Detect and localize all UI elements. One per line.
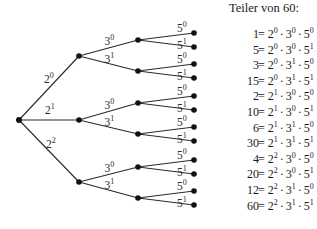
- divisor-row: 30= 21·31·51: [0, 136, 317, 150]
- divisor-row: 4= 22·30·50: [0, 152, 317, 166]
- prime-factorization: = 22·31·51: [258, 199, 314, 213]
- prime-factorization: = 21·30·50: [258, 89, 314, 103]
- divisor-row: 60= 22·31·51: [0, 199, 317, 213]
- prime-factorization: = 22·30·51: [258, 167, 314, 181]
- prime-factorization: = 20·30·50: [258, 27, 314, 41]
- divisor-row: 1= 20·30·50: [0, 27, 317, 41]
- divisor-row: 2= 21·30·50: [0, 89, 317, 103]
- prime-factorization: = 22·31·50: [258, 183, 314, 197]
- prime-factorization: = 20·30·51: [258, 43, 314, 57]
- divisor-row: 15= 20·31·51: [0, 74, 317, 88]
- prime-factorization: = 21·30·51: [258, 105, 314, 119]
- prime-factorization: = 20·31·50: [258, 58, 314, 72]
- prime-factorization: = 22·30·50: [258, 152, 314, 166]
- divisor-row: 12= 22·31·50: [0, 183, 317, 197]
- divisor-row: 5= 20·30·51: [0, 43, 317, 57]
- prime-factorization: = 20·31·51: [258, 74, 314, 88]
- divisor-row: 3= 20·31·50: [0, 58, 317, 72]
- divisor-list-title: Teiler von 60:: [229, 1, 299, 16]
- prime-factorization: = 21·31·50: [258, 121, 314, 135]
- divisor-row: 6= 21·31·50: [0, 121, 317, 135]
- prime-factorization: = 21·31·51: [258, 136, 314, 150]
- divisor-row: 10= 21·30·51: [0, 105, 317, 119]
- divisor-row: 20= 22·30·51: [0, 167, 317, 181]
